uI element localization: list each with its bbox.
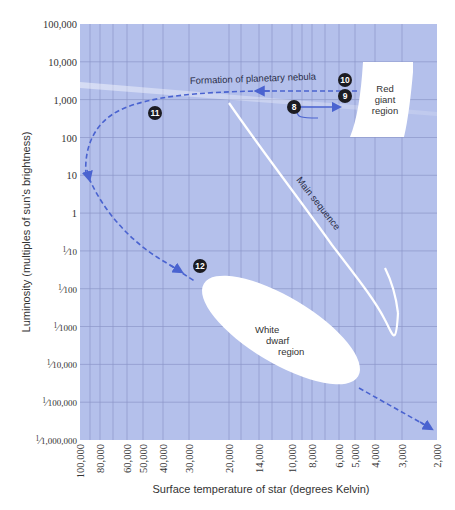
svg-text:60,000: 60,000 (122, 444, 133, 473)
svg-text:100,000: 100,000 (43, 19, 77, 30)
svg-text:1: 1 (72, 208, 77, 219)
red-giant-label-line1: Red (376, 83, 393, 94)
svg-text:100,000: 100,000 (75, 444, 86, 478)
x-tick-labels: 100,000 80,000 60,000 50,000 40,000 30,0… (75, 444, 443, 478)
svg-text:10,000: 10,000 (48, 57, 77, 68)
white-dwarf-label-line3: region (278, 346, 304, 357)
svg-text:100: 100 (61, 133, 77, 144)
red-giant-label-line3: region (372, 105, 398, 116)
svg-text:14,000: 14,000 (254, 444, 265, 473)
badge-12: 12 (193, 259, 207, 273)
svg-text:80,000: 80,000 (95, 444, 106, 473)
svg-text:1⁄100: 1⁄100 (58, 283, 78, 295)
svg-text:1⁄1000: 1⁄1000 (53, 321, 77, 333)
svg-text:3,000: 3,000 (397, 444, 408, 468)
white-dwarf-label-line1: White (255, 324, 279, 335)
badge-11: 11 (148, 106, 162, 120)
svg-text:10,000: 10,000 (287, 444, 298, 473)
y-tick-labels: 100,000 10,000 1,000 100 10 1 (43, 19, 77, 219)
svg-text:1⁄10,000: 1⁄10,000 (47, 358, 78, 370)
svg-text:1⁄1,000,000: 1⁄1,000,000 (35, 434, 77, 446)
svg-text:2,000: 2,000 (432, 444, 443, 468)
red-giant-label-line2: giant (375, 94, 396, 105)
badge-9: 9 (338, 89, 352, 103)
svg-text:30,000: 30,000 (184, 444, 195, 473)
svg-text:8,000: 8,000 (307, 444, 318, 468)
svg-text:1,000: 1,000 (53, 95, 77, 106)
svg-text:4,000: 4,000 (370, 444, 381, 468)
badge-10: 10 (338, 73, 352, 87)
svg-text:6,000: 6,000 (334, 444, 345, 468)
svg-text:9: 9 (343, 91, 348, 101)
svg-text:50,000: 50,000 (138, 444, 149, 473)
svg-text:40,000: 40,000 (158, 444, 169, 473)
svg-text:1⁄100,000: 1⁄100,000 (42, 396, 77, 408)
svg-text:12: 12 (195, 261, 205, 271)
svg-text:10: 10 (67, 170, 78, 181)
badge-8: 8 (287, 100, 301, 114)
white-dwarf-label-line2: dwarf (266, 335, 290, 346)
svg-text:5,000: 5,000 (350, 444, 361, 468)
y-fraction-labels: 1⁄10 1⁄100 1⁄1000 1⁄10,000 1⁄100,000 1⁄1… (35, 245, 77, 446)
hr-diagram: Red giant region Main sequence White dwa… (0, 0, 455, 510)
svg-text:8: 8 (292, 102, 297, 112)
svg-text:20,000: 20,000 (224, 444, 235, 473)
svg-text:11: 11 (151, 108, 160, 118)
x-axis-label: Surface temperature of star (degrees Kel… (152, 483, 369, 495)
svg-text:1⁄10: 1⁄10 (62, 245, 77, 257)
y-axis-label: Luminosity (multiples of sun's brightnes… (20, 132, 32, 333)
svg-text:10: 10 (340, 75, 350, 85)
